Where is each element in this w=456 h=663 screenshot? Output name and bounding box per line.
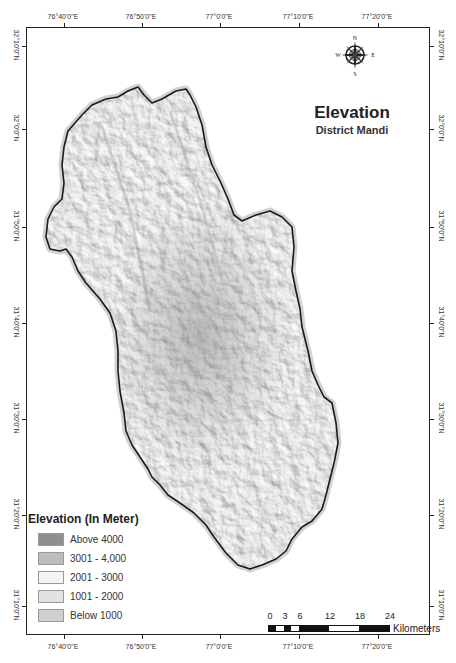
legend-item: 1001 - 2000 bbox=[38, 587, 139, 606]
legend-swatch bbox=[38, 590, 64, 603]
compass-rose-icon: N S W E bbox=[330, 34, 380, 78]
scale-tick: 3 bbox=[282, 611, 287, 621]
legend-label: Above 4000 bbox=[70, 534, 123, 545]
lat-label: 31°10'0"N bbox=[13, 589, 20, 620]
lat-label: 32°10'0"N bbox=[438, 29, 445, 60]
scale-unit: Kilometers bbox=[393, 623, 440, 634]
lat-label: 31°30'0"N bbox=[438, 402, 445, 433]
lat-label: 32°0'0"N bbox=[13, 114, 20, 141]
legend-swatch bbox=[38, 533, 64, 546]
scale-tick: 0 bbox=[267, 611, 272, 621]
scale-bar-graphic bbox=[268, 625, 390, 632]
lon-label: 76°40'0"E bbox=[48, 13, 79, 20]
compass-e: E bbox=[371, 52, 375, 58]
scale-tick: 18 bbox=[355, 611, 365, 621]
lat-label: 31°20'0"N bbox=[438, 498, 445, 529]
legend-item: 2001 - 3000 bbox=[38, 568, 139, 587]
scale-bar: 0 3 6 12 18 24 Kilometers bbox=[268, 611, 440, 634]
compass-s: S bbox=[353, 71, 356, 77]
lon-label: 77°10'0"E bbox=[283, 13, 314, 20]
legend-item: Below 1000 bbox=[38, 606, 139, 625]
legend-swatch bbox=[38, 552, 64, 565]
compass-n: N bbox=[353, 35, 358, 41]
legend-label: 1001 - 2000 bbox=[70, 591, 123, 602]
legend-swatch bbox=[38, 609, 64, 622]
lat-label: 32°0'0"N bbox=[438, 114, 445, 141]
legend-item: 3001 - 4,000 bbox=[38, 549, 139, 568]
lon-label: 76°40'0"E bbox=[48, 643, 79, 650]
legend: Elevation (In Meter) Above 4000 3001 - 4… bbox=[28, 512, 139, 625]
scale-ticks: 0 3 6 12 18 24 bbox=[268, 611, 398, 623]
lon-label: 76°50'0"E bbox=[126, 643, 157, 650]
lat-label: 31°20'0"N bbox=[13, 498, 20, 529]
lat-label: 31°40'0"N bbox=[438, 306, 445, 337]
lon-label: 77°20'0"E bbox=[362, 13, 393, 20]
legend-label: Below 1000 bbox=[70, 610, 122, 621]
lat-label: 31°30'0"N bbox=[13, 402, 20, 433]
legend-title: Elevation (In Meter) bbox=[28, 512, 139, 526]
lon-label: 76°50'0"E bbox=[126, 13, 157, 20]
scale-tick: 12 bbox=[325, 611, 335, 621]
map-subtitle: District Mandi bbox=[316, 124, 389, 136]
compass-w: W bbox=[335, 52, 341, 58]
lon-label: 77°0'0"E bbox=[206, 13, 233, 20]
legend-label: 3001 - 4,000 bbox=[70, 553, 126, 564]
legend-swatch bbox=[38, 571, 64, 584]
scale-tick: 24 bbox=[385, 611, 395, 621]
scale-tick: 6 bbox=[297, 611, 302, 621]
lon-label: 77°20'0"E bbox=[362, 643, 393, 650]
lat-label: 32°10'0"N bbox=[13, 29, 20, 60]
legend-label: 2001 - 3000 bbox=[70, 572, 123, 583]
map-title: Elevation bbox=[314, 103, 390, 123]
lat-label: 31°50'0"N bbox=[438, 210, 445, 241]
lon-label: 77°0'0"E bbox=[206, 643, 233, 650]
legend-item: Above 4000 bbox=[38, 530, 139, 549]
lat-label: 31°50'0"N bbox=[13, 210, 20, 241]
lat-label: 31°40'0"N bbox=[13, 306, 20, 337]
lon-label: 77°10'0"E bbox=[283, 643, 314, 650]
